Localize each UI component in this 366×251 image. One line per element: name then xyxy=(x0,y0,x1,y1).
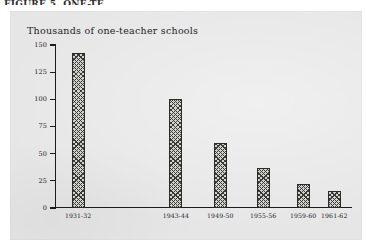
x-tick-label: 1961-62 xyxy=(321,212,347,219)
bar xyxy=(72,53,85,208)
bar xyxy=(328,191,341,208)
bar xyxy=(169,99,182,208)
y-tick-label: 150 xyxy=(34,41,47,49)
y-tick-mark xyxy=(50,72,56,73)
y-tick-mark xyxy=(50,207,56,208)
y-tick: 0 xyxy=(50,207,56,208)
bar-series xyxy=(56,45,352,208)
y-tick-label: 75 xyxy=(39,122,47,130)
y-tick: 125 xyxy=(50,72,56,73)
y-tick: 75 xyxy=(50,126,56,127)
y-tick-label: 125 xyxy=(34,68,47,76)
x-tick-label: 1949-50 xyxy=(207,212,233,219)
y-tick-label: 100 xyxy=(34,95,47,103)
y-tick-mark xyxy=(50,44,56,45)
bar xyxy=(297,184,310,208)
y-tick: 25 xyxy=(50,180,56,181)
y-tick: 50 xyxy=(50,153,56,154)
figure-panel: Thousands of one-teacher schools 0255075… xyxy=(10,11,362,240)
bar xyxy=(214,143,227,208)
y-tick-mark xyxy=(50,153,56,154)
bar xyxy=(257,168,270,208)
y-tick-label: 50 xyxy=(39,149,47,157)
x-tick-label: 1943-44 xyxy=(163,212,189,219)
y-tick-mark xyxy=(50,99,56,100)
y-tick-mark xyxy=(50,126,56,127)
y-tick: 100 xyxy=(50,99,56,100)
y-tick-mark xyxy=(50,180,56,181)
x-tick-label: 1959-60 xyxy=(290,212,316,219)
y-tick-label: 0 xyxy=(43,204,47,212)
plot-area: 0255075100125150 1931-321943-441949-5019… xyxy=(10,11,362,240)
y-tick-label: 25 xyxy=(39,177,47,185)
x-tick-label: 1931-32 xyxy=(65,212,91,219)
y-tick: 150 xyxy=(50,44,56,45)
x-tick-label: 1955-56 xyxy=(250,212,276,219)
scan-caption-fragment: FIGURE 5. ONE-TE xyxy=(4,0,154,5)
